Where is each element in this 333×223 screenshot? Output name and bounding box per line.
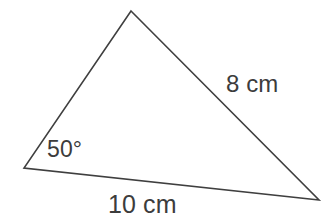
side-length-label-right: 8 cm bbox=[226, 72, 278, 96]
triangle-outline bbox=[24, 11, 319, 200]
angle-measure-label: 50° bbox=[47, 138, 82, 161]
triangle-figure: 8 cm 50° 10 cm bbox=[0, 0, 333, 223]
side-length-label-bottom: 10 cm bbox=[108, 192, 177, 217]
